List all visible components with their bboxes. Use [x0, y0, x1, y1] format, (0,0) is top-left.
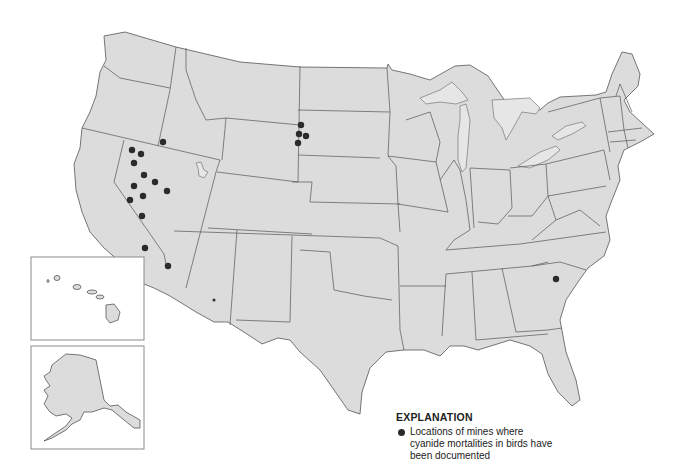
hawaii-inset	[31, 257, 144, 340]
mine-site-marker	[131, 183, 137, 189]
mine-site-marker	[131, 160, 137, 166]
legend-entry-label: Locations of mines where cyanide mortali…	[410, 426, 552, 462]
mine-site-marker	[142, 245, 148, 251]
legend-entry: Locations of mines where cyanide mortali…	[396, 426, 656, 462]
mine-site-marker	[295, 140, 301, 146]
legend-title: EXPLANATION	[396, 411, 656, 423]
mine-site-marker	[298, 122, 304, 128]
mine-site-marker	[129, 147, 135, 153]
mine-site-marker	[303, 133, 309, 139]
mine-site-marker	[165, 263, 171, 269]
mine-site-marker	[213, 299, 216, 302]
legend: EXPLANATION Locations of mines where cya…	[396, 411, 656, 462]
mine-site-marker	[164, 188, 170, 194]
mine-site-marker	[139, 213, 145, 219]
mine-site-marker	[138, 151, 144, 157]
mine-site-marker	[140, 193, 146, 199]
conterminous-us	[74, 32, 654, 414]
mine-site-marker	[296, 131, 302, 137]
mine-site-marker	[553, 276, 559, 282]
mine-site-symbol-icon	[398, 429, 405, 436]
mine-site-marker	[141, 172, 147, 178]
us-map	[0, 0, 700, 475]
mine-site-marker	[127, 197, 133, 203]
mine-site-marker	[160, 139, 166, 145]
mine-site-marker	[152, 179, 158, 185]
